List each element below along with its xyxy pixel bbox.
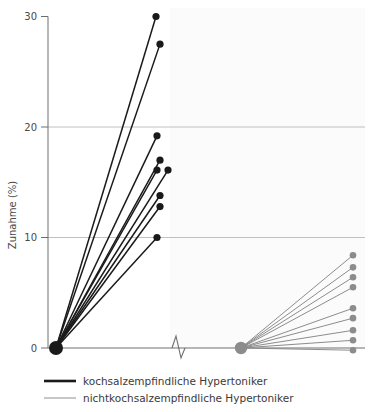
connector-line	[56, 44, 160, 348]
data-point	[156, 157, 163, 164]
y-tick-label-20: 20	[24, 122, 37, 133]
connector-line	[56, 170, 157, 348]
data-point	[350, 305, 357, 312]
connector-line	[56, 17, 156, 349]
y-axis-tick-labels: 0102030	[24, 11, 37, 354]
connector-line	[56, 136, 157, 348]
data-point	[350, 252, 357, 259]
series-0	[49, 13, 172, 355]
scatter-plot: 0102030 Zunahme (%) kochsalzempfindliche…	[0, 0, 369, 412]
data-point	[350, 315, 357, 322]
origin-point	[49, 341, 63, 355]
data-point	[350, 327, 357, 334]
y-axis	[41, 17, 48, 349]
data-point	[153, 234, 160, 241]
origin-point	[235, 342, 247, 354]
legend-label-0: kochsalzempfindliche Hypertoniker	[83, 375, 268, 387]
data-point	[350, 347, 357, 354]
data-point	[152, 13, 159, 20]
data-point	[350, 284, 357, 291]
connector-line	[56, 238, 157, 349]
connector-line	[56, 170, 168, 348]
data-point	[350, 264, 357, 271]
data-point	[153, 132, 160, 139]
connector-line	[56, 207, 160, 348]
legend: kochsalzempfindliche Hypertonikernichtko…	[44, 375, 294, 404]
data-point	[156, 41, 163, 48]
y-tick-label-30: 30	[24, 11, 37, 22]
data-point	[153, 166, 160, 173]
chart-container: 0102030 Zunahme (%) kochsalzempfindliche…	[0, 0, 369, 412]
connector-line	[56, 196, 160, 348]
y-tick-label-0: 0	[31, 343, 37, 354]
data-point	[164, 166, 171, 173]
legend-label-1: nichtkochsalzempfindliche Hypertoniker	[83, 392, 294, 404]
y-tick-label-10: 10	[24, 232, 37, 243]
data-point	[156, 192, 163, 199]
data-point	[350, 274, 357, 281]
data-point	[156, 203, 163, 210]
y-axis-title: Zunahme (%)	[7, 181, 18, 249]
data-point	[350, 337, 357, 344]
